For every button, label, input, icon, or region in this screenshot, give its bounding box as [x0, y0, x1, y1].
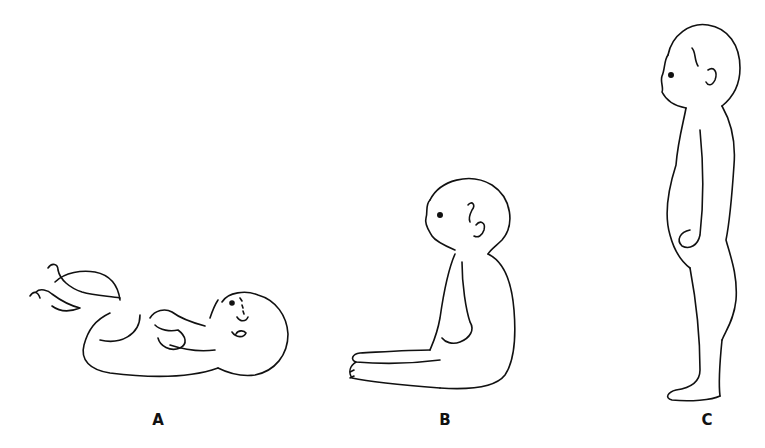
infant-sitting-drawing: [350, 179, 515, 389]
panel-label-b: B: [439, 411, 450, 429]
panel-label-a: A: [152, 411, 164, 429]
toddler-standing-drawing: [661, 25, 740, 401]
figure-illustration: [0, 0, 765, 448]
panel-label-c: C: [701, 411, 712, 429]
infant-supine-drawing: [30, 264, 288, 376]
